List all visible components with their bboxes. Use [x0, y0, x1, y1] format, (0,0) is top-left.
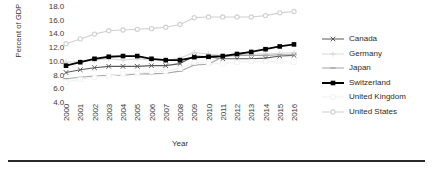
y-tick-label: 10.0	[49, 56, 64, 65]
y-axis-title: Percent of GDP	[14, 0, 23, 71]
series-united-states	[64, 9, 296, 45]
series-canvas	[66, 6, 294, 102]
footer-divider	[8, 160, 425, 162]
x-tick-label: 2010	[205, 104, 214, 121]
x-axis-tick-labels: 2000200120022003200420052006200720082009…	[66, 104, 294, 138]
legend-label: United Kingdom	[349, 93, 406, 101]
legend-item-united-states[interactable]: United States	[322, 105, 430, 120]
x-tick-label: 2008	[176, 104, 185, 121]
y-tick-label: 16.0	[49, 15, 64, 24]
legend-item-japan[interactable]: Japan	[322, 61, 430, 76]
x-tick-label: 2005	[133, 104, 142, 121]
legend-label: United States	[349, 108, 397, 116]
legend-label: Canada	[349, 35, 377, 43]
plot-area	[66, 6, 294, 102]
chart-page: Percent of GDP 18.016.014.012.010.08.06.…	[0, 0, 433, 171]
legend-item-germany[interactable]: Germany	[322, 47, 430, 62]
legend-marker-icon	[322, 63, 344, 73]
y-tick-label: 6.0	[53, 84, 64, 93]
legend-label: Switzerland	[349, 79, 390, 87]
legend-marker-icon	[322, 78, 344, 88]
x-tick-label: 2007	[162, 104, 171, 121]
legend-marker-icon	[322, 49, 344, 59]
y-axis-tick-labels: 18.016.014.012.010.08.06.04.0	[36, 0, 64, 110]
x-tick-label: 2001	[76, 104, 85, 121]
legend-item-united-kingdom[interactable]: United Kingdom	[322, 90, 430, 105]
y-tick-label: 8.0	[53, 70, 64, 79]
x-tick-label: 2016	[290, 104, 299, 121]
y-tick-label: 12.0	[49, 43, 64, 52]
x-tick-label: 2002	[91, 104, 100, 121]
legend-label: Japan	[349, 64, 371, 72]
legend-marker-icon	[322, 34, 344, 44]
legend-marker-icon	[322, 107, 344, 117]
legend-item-switzerland[interactable]: Switzerland	[322, 76, 430, 91]
x-tick-label: 2012	[233, 104, 242, 121]
x-tick-label: 2003	[105, 104, 114, 121]
line-chart-figure: Percent of GDP 18.016.014.012.010.08.06.…	[0, 0, 433, 140]
legend-label: Germany	[349, 50, 382, 58]
x-axis-title: Year	[66, 139, 294, 148]
y-tick-label: 18.0	[49, 2, 64, 11]
x-tick-label: 2009	[190, 104, 199, 121]
x-tick-label: 2004	[119, 104, 128, 121]
x-tick-label: 2015	[276, 104, 285, 121]
x-tick-label: 2014	[262, 104, 271, 121]
x-tick-label: 2011	[219, 104, 228, 120]
legend-marker-icon	[322, 92, 344, 102]
x-tick-label: 2000	[62, 104, 71, 121]
legend-item-canada[interactable]: Canada	[322, 32, 430, 47]
y-tick-label: 14.0	[49, 29, 64, 38]
chart-legend: CanadaGermanyJapanSwitzerlandUnited King…	[322, 32, 430, 119]
x-tick-label: 2006	[148, 104, 157, 121]
x-tick-label: 2013	[247, 104, 256, 121]
